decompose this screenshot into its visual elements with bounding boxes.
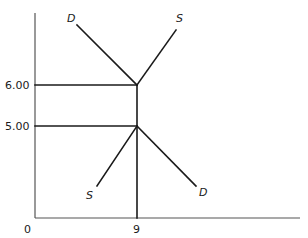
supply-lower-segment [97,126,137,186]
demand-upper-segment [77,25,137,85]
origin-label: 0 [24,223,31,236]
supply-demand-diagram: D S S D 6.00 5.00 0 9 [0,0,308,238]
supply-upper-segment [137,30,176,85]
demand-lower-label: D [199,186,207,199]
demand-upper-label: D [67,12,75,25]
y-tick-5: 5.00 [5,120,30,133]
x-tick-9: 9 [133,223,140,236]
supply-upper-label: S [176,12,183,25]
demand-lower-segment [137,126,196,186]
supply-lower-label: S [86,189,93,202]
y-tick-6: 6.00 [5,79,30,92]
